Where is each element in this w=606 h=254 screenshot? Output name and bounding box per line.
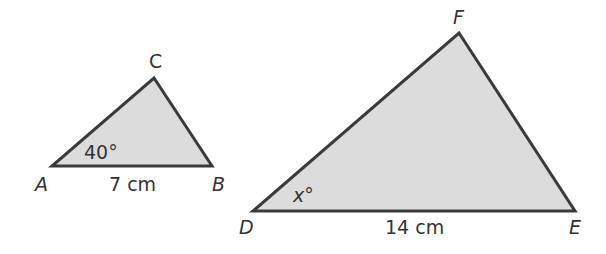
triangle-abc [52,78,212,166]
vertex-label-c: C [149,52,162,71]
vertex-label-d: D [239,218,254,237]
angle-label-d: x° [293,186,314,205]
side-label-de: 14 cm [385,218,444,237]
diagram-canvas [0,0,606,254]
side-label-ab: 7 cm [109,175,156,194]
vertex-label-b: B [212,175,225,194]
vertex-label-e: E [569,218,581,237]
vertex-label-f: F [453,8,464,27]
angle-label-a: 40° [84,143,118,162]
vertex-label-a: A [35,175,48,194]
